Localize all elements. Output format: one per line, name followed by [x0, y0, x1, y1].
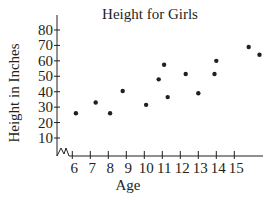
data-point: [144, 103, 148, 107]
data-point: [247, 45, 251, 49]
x-tick-label: 7: [89, 160, 97, 176]
scatter-chart: Height for Girls Height in Inches Age 10…: [0, 0, 274, 201]
data-point: [121, 89, 125, 93]
data-points: [74, 45, 262, 116]
y-tick-label: 70: [38, 37, 53, 53]
y-tick-label: 80: [38, 22, 53, 38]
y-axis-label: Height in Inches: [6, 43, 22, 142]
data-point: [212, 72, 216, 76]
data-point: [184, 72, 188, 76]
y-tick-label: 10: [38, 130, 53, 146]
x-tick-label: 11: [157, 160, 171, 176]
y-tick-label: 30: [38, 99, 53, 115]
chart-svg: Height for Girls Height in Inches Age 10…: [0, 0, 274, 201]
y-tick-label: 60: [38, 53, 53, 69]
data-point: [214, 59, 218, 63]
y-tick-label: 40: [38, 84, 53, 100]
axes: [57, 15, 263, 156]
data-point: [257, 52, 261, 56]
y-tick-label: 20: [38, 115, 53, 131]
x-tick-label: 14: [211, 160, 227, 176]
data-point: [162, 63, 166, 67]
x-tick-label: 6: [71, 160, 79, 176]
data-point: [196, 91, 200, 95]
x-tick-label: 12: [175, 160, 190, 176]
y-tick-label: 50: [38, 68, 53, 84]
data-point: [94, 100, 98, 104]
data-point: [157, 77, 161, 81]
x-tick-label: 10: [139, 160, 154, 176]
data-point: [74, 111, 78, 115]
x-axis-label: Age: [116, 177, 141, 193]
x-tick-label: 13: [193, 160, 208, 176]
x-tick-label: 9: [125, 160, 133, 176]
x-tick-label: 15: [229, 160, 244, 176]
data-point: [108, 111, 112, 115]
data-point: [166, 95, 170, 99]
x-tick-label: 8: [107, 160, 115, 176]
axis-break-icon: [57, 148, 69, 156]
x-ticks: 6789101112131415: [71, 151, 244, 176]
chart-title: Height for Girls: [102, 6, 198, 22]
